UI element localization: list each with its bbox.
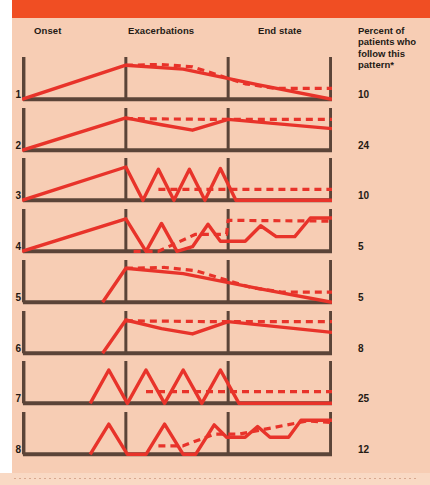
- solid-trajectory-6: [103, 320, 332, 353]
- trajectory-panel-6: [22, 311, 332, 356]
- panel-row-label-7: 7: [8, 393, 21, 404]
- column-header-end-state: End state: [258, 25, 302, 36]
- percent-value-4: 5: [358, 241, 384, 252]
- trajectory-panel-3: [22, 158, 332, 203]
- percent-value-3: 10: [358, 190, 384, 201]
- solid-trajectory-4: [22, 218, 332, 251]
- panel-row-label-1: 1: [8, 89, 21, 100]
- percent-value-1: 10: [358, 89, 384, 100]
- panel-row-label-6: 6: [8, 343, 21, 354]
- bottom-strip: [0, 473, 430, 485]
- column-header-percent: Percent of patients who follow this patt…: [358, 25, 428, 71]
- panel-row-label-4: 4: [8, 241, 21, 252]
- panel-row-label-8: 8: [8, 444, 21, 455]
- percent-value-2: 24: [358, 140, 384, 151]
- trajectory-panel-2: [22, 108, 332, 153]
- percent-value-5: 5: [358, 292, 384, 303]
- panel-row-label-5: 5: [8, 292, 21, 303]
- figure-root: Onset Exacerbations End state Percent of…: [0, 0, 430, 485]
- trajectory-panel-1: [22, 57, 332, 102]
- trajectory-panel-4: [22, 209, 332, 254]
- panel-row-label-3: 3: [8, 190, 21, 201]
- column-header-onset: Onset: [34, 25, 61, 36]
- solid-trajectory-3: [22, 167, 332, 200]
- bottom-dotted-rule: [14, 478, 418, 479]
- trajectory-panel-8: [22, 412, 332, 457]
- solid-trajectory-5: [103, 268, 332, 302]
- panel-row-label-2: 2: [8, 140, 21, 151]
- percent-value-8: 12: [358, 444, 384, 455]
- trajectory-panel-7: [22, 361, 332, 406]
- dashed-trend-8: [158, 421, 332, 446]
- percent-value-6: 8: [358, 343, 384, 354]
- top-banner: [12, 0, 430, 18]
- solid-trajectory-2: [22, 117, 332, 149]
- column-header-exacerbations: Exacerbations: [128, 25, 194, 36]
- solid-trajectory-1: [22, 65, 332, 99]
- trajectory-panel-5: [22, 260, 332, 305]
- percent-value-7: 25: [358, 393, 384, 404]
